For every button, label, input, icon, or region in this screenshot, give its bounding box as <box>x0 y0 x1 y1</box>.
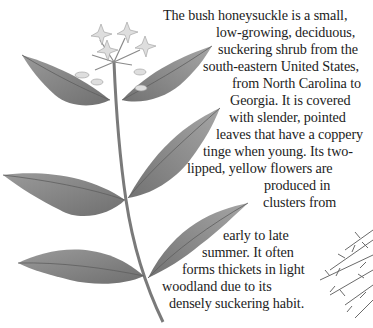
text-line: early to late <box>223 227 289 243</box>
text-line: suckering shrub from the <box>218 41 358 57</box>
text-line: summer. It often <box>202 244 294 260</box>
text-line: leaves that have a coppery <box>216 126 363 142</box>
text-line: clusters from <box>263 194 336 210</box>
text-line: low-growing, deciduous, <box>216 24 355 40</box>
text-line: from North Carolina to <box>232 75 361 91</box>
text-line: with slender, pointed <box>229 109 346 125</box>
text-line: forms thickets in light <box>182 261 305 277</box>
text-line: tinge when young. Its two- <box>203 143 353 159</box>
text-line: woodland due to its <box>162 278 272 294</box>
shrub-foliage <box>320 230 373 318</box>
text-line: The bush honeysuckle is a small, <box>163 7 347 23</box>
text-line: produced in <box>264 177 330 193</box>
text-line: densely suckering habit. <box>169 295 304 311</box>
text-line: Georgia. It is covered <box>230 92 350 108</box>
text-line: south-eastern United States, <box>203 58 359 74</box>
text-line: lipped, yellow flowers are <box>187 160 333 176</box>
